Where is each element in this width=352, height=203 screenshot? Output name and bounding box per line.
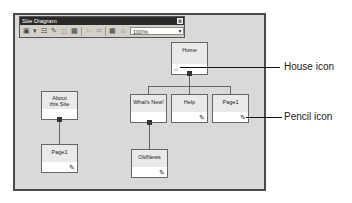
zoom-select[interactable]: 100% ▼ bbox=[130, 27, 184, 35]
connector-whatsnew bbox=[148, 86, 149, 94]
pencil-callout-line bbox=[246, 117, 282, 118]
new-page-icon[interactable]: ▣ bbox=[23, 27, 30, 35]
pencil-icon: ✎ bbox=[69, 164, 75, 171]
node-label: About this Site bbox=[42, 92, 77, 109]
connector-about-page1 bbox=[59, 120, 60, 144]
toolbar: ▣ ▾ ☷ ✎ □ ▩ ✂ ⇄ ▦ ☆ 100% ▼ bbox=[20, 25, 184, 37]
node-page1[interactable]: Page1 ✎ bbox=[212, 94, 249, 123]
add-child-icon[interactable]: ☷ bbox=[40, 27, 47, 35]
node-label: What's New! bbox=[131, 95, 166, 112]
node-help[interactable]: Help ✎ bbox=[171, 94, 208, 123]
expand-handle[interactable] bbox=[147, 120, 152, 125]
node-label: Page1 bbox=[213, 95, 248, 112]
new-diagram-icon[interactable]: □ bbox=[61, 27, 68, 35]
node-about-page1[interactable]: Page1 ✎ bbox=[41, 144, 78, 173]
hierarchy-icon[interactable]: ☆ bbox=[119, 27, 126, 35]
toolbar-separator bbox=[105, 27, 106, 36]
house-callout-label: House icon bbox=[284, 61, 334, 72]
window-title: Site Diagram bbox=[22, 18, 57, 24]
pencil-icon: ✎ bbox=[159, 169, 165, 176]
node-label: Home bbox=[172, 43, 207, 64]
node-label: Help bbox=[172, 95, 207, 112]
properties-icon[interactable]: ▩ bbox=[71, 27, 78, 35]
title-bar[interactable]: Site Diagram x bbox=[20, 17, 184, 25]
connector-whatsnew-oldnews bbox=[149, 123, 150, 149]
node-oldnews[interactable]: OldNews ✎ bbox=[131, 149, 168, 178]
expand-handle[interactable] bbox=[187, 71, 192, 76]
zoom-value: 100% bbox=[133, 29, 148, 35]
expand-icon[interactable]: ▦ bbox=[109, 27, 116, 35]
house-callout-line bbox=[180, 67, 280, 68]
chevron-down-icon[interactable]: ▼ bbox=[177, 28, 183, 34]
house-icon: ⌂ bbox=[174, 66, 178, 73]
node-whats-new[interactable]: What's New! bbox=[130, 94, 167, 123]
pencil-icon: ✎ bbox=[199, 114, 205, 121]
connector-help bbox=[189, 86, 190, 94]
add-existing-icon[interactable]: ✎ bbox=[50, 27, 57, 35]
site-diagram-window: Site Diagram x ▣ ▾ ☷ ✎ □ ▩ ✂ ⇄ ▦ ☆ 100% … bbox=[19, 16, 185, 38]
close-button[interactable]: x bbox=[177, 18, 183, 24]
dropdown-arrow-icon[interactable]: ▾ bbox=[33, 27, 37, 35]
cut-icon[interactable]: ✂ bbox=[85, 27, 92, 35]
connector-page1 bbox=[230, 86, 231, 94]
expand-handle[interactable] bbox=[57, 117, 62, 122]
pencil-callout-label: Pencil icon bbox=[284, 111, 332, 122]
node-about-this-site[interactable]: About this Site bbox=[41, 91, 78, 120]
node-label: Page1 bbox=[42, 145, 77, 162]
remove-link-icon[interactable]: ⇄ bbox=[95, 27, 102, 35]
toolbar-separator bbox=[81, 27, 82, 36]
node-label: OldNews bbox=[132, 150, 167, 167]
